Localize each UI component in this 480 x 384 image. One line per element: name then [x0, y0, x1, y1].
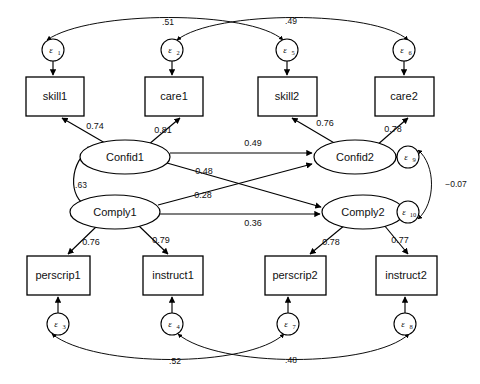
observed-node-care2: care2 [375, 77, 434, 116]
error-node-e4: ε 4 [161, 313, 183, 335]
e3-label: ε [54, 319, 58, 329]
error-term-circles: ε 1 ε 2 ε 5 ε 6 ε 3 [42, 39, 419, 335]
e4-label: ε [168, 319, 172, 329]
error-to-indicator-arrows [53, 61, 405, 313]
error-node-e2: ε 2 [161, 39, 183, 61]
label-e9-e10: −0.07 [445, 179, 467, 189]
e7-circle [277, 313, 299, 335]
observed-node-skill1: skill1 [26, 77, 84, 116]
e5-subscript: 5 [291, 49, 294, 56]
arrow-confid1-comply2 [167, 163, 321, 207]
latent-node-confid1: Confid1 [80, 140, 170, 174]
e1-subscript: 1 [57, 49, 60, 56]
e5-circle [276, 39, 298, 61]
structural-path-arrows [158, 153, 321, 214]
e8-subscript: 8 [409, 323, 412, 330]
label-comply1-perscrip1: 0.76 [82, 237, 100, 247]
label-e1-e5: .51 [162, 17, 174, 27]
e1-circle [42, 39, 64, 61]
label-confid1-skill1: 0.74 [86, 121, 104, 131]
sem-path-diagram: skill1 care1 skill2 care2 perscrip1 inst… [0, 0, 480, 384]
e3-subscript: 3 [62, 323, 65, 330]
e10-label: ε [402, 207, 406, 217]
label-confid1-care1: 0.81 [154, 125, 172, 135]
observed-node-instruct2: instruct2 [376, 256, 437, 295]
label-comply1-instruct1: 0.79 [152, 235, 170, 245]
comply1-label: Comply1 [93, 206, 136, 218]
covariance-arcs [47, 18, 432, 360]
error-node-e9: ε 9 [397, 146, 419, 168]
label-comply2-instruct2: 0.77 [391, 235, 409, 245]
error-node-e10: ε 10 [397, 201, 419, 223]
e9-label: ε [404, 152, 408, 162]
error-node-e8: ε 8 [394, 313, 416, 335]
label-confid1-comply1: .63 [75, 180, 87, 190]
confid2-label: Confid2 [336, 151, 374, 163]
latent-node-comply2: Comply2 [322, 195, 404, 229]
error-node-e1: ε 1 [42, 39, 64, 61]
e2-circle [161, 39, 183, 61]
label-comply1-confid2: 0.28 [194, 190, 212, 200]
label-e2-e6: .49 [285, 16, 297, 26]
label-confid1-confid2: 0.49 [244, 138, 262, 148]
diagram-canvas: skill1 care1 skill2 care2 perscrip1 inst… [0, 0, 480, 384]
e2-label: ε [168, 45, 172, 55]
observed-node-perscrip2: perscrip2 [265, 256, 326, 295]
label-e3-e7: .52 [169, 356, 181, 366]
label-confid2-care2: 0.78 [384, 124, 402, 134]
observed-node-skill2: skill2 [258, 77, 317, 116]
e10-subscript: 10 [410, 211, 417, 218]
observed-node-instruct1: instruct1 [143, 256, 203, 295]
skill1-label: skill1 [43, 90, 67, 102]
e9-circle [397, 146, 419, 168]
care2-label: care2 [390, 90, 418, 102]
label-confid2-skill2: 0.76 [316, 118, 334, 128]
label-e4-e8: .48 [285, 355, 297, 365]
confid1-label: Confid1 [106, 151, 144, 163]
skill2-label: skill2 [275, 90, 299, 102]
e1-label: ε [49, 45, 53, 55]
e8-label: ε [401, 319, 405, 329]
care1-label: care1 [160, 90, 188, 102]
structural-path-labels: 0.49 0.48 0.28 0.36 [194, 138, 262, 228]
label-comply2-perscrip2: 0.78 [322, 237, 340, 247]
e9-subscript: 9 [412, 156, 415, 163]
instruct2-label: instruct2 [385, 269, 427, 281]
error-node-e7: ε 7 [277, 313, 299, 335]
e7-label: ε [284, 319, 288, 329]
perscrip1-label: perscrip1 [35, 269, 80, 281]
arc-e3-e7 [52, 334, 284, 360]
latent-node-comply1: Comply1 [70, 195, 160, 229]
perscrip2-label: perscrip2 [272, 269, 317, 281]
arc-e9-e10 [418, 150, 432, 219]
error-node-e6: ε 6 [393, 39, 415, 61]
e2-subscript: 2 [176, 49, 179, 56]
e5-label: ε [283, 45, 287, 55]
label-confid1-comply2: 0.48 [195, 166, 213, 176]
arrow-comply1-confid2 [158, 164, 312, 205]
observed-node-care1: care1 [145, 77, 203, 116]
instruct1-label: instruct1 [152, 269, 194, 281]
error-node-e5: ε 5 [276, 39, 298, 61]
comply2-label: Comply2 [341, 206, 384, 218]
error-node-e3: ε 3 [47, 313, 69, 335]
e6-label: ε [400, 45, 404, 55]
e8-circle [394, 313, 416, 335]
latent-node-confid2: Confid2 [314, 140, 396, 174]
factor-loading-arrows [62, 118, 408, 254]
e6-circle [393, 39, 415, 61]
e3-circle [47, 313, 69, 335]
label-comply1-comply2: 0.36 [244, 218, 262, 228]
e4-circle [161, 313, 183, 335]
observed-node-perscrip1: perscrip1 [27, 256, 90, 295]
